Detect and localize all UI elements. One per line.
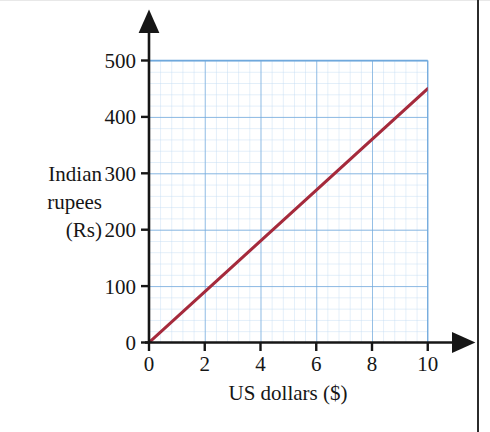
y-tick-label-400: 400 — [105, 105, 137, 129]
y-axis-title-line-2: rupees — [47, 190, 102, 214]
x-axis — [145, 343, 452, 352]
y-tick-label-500: 500 — [105, 49, 137, 73]
x-tick-labels: 0 2 4 6 8 10 — [144, 352, 439, 376]
chart-page: 0 100 200 300 400 500 0 2 4 6 8 10 US do… — [0, 0, 490, 432]
y-axis-title-line-1: Indian — [48, 162, 102, 186]
y-tick-label-300: 300 — [105, 162, 137, 186]
plot-grid — [149, 61, 428, 343]
x-tick-label-10: 10 — [417, 352, 438, 376]
y-tick-label-100: 100 — [105, 275, 137, 299]
x-tick-label-0: 0 — [144, 352, 155, 376]
y-axis-title: Indian rupees (Rs) — [47, 162, 102, 242]
y-tick-label-0: 0 — [126, 331, 137, 355]
y-axis-title-line-3: (Rs) — [66, 218, 102, 242]
y-axis — [141, 33, 149, 343]
x-tick-label-2: 2 — [200, 352, 211, 376]
x-tick-label-8: 8 — [367, 352, 378, 376]
x-tick-label-4: 4 — [255, 352, 266, 376]
line-chart: 0 100 200 300 400 500 0 2 4 6 8 10 US do… — [0, 0, 490, 432]
y-tick-label-200: 200 — [105, 218, 137, 242]
x-tick-label-6: 6 — [311, 352, 322, 376]
x-axis-title: US dollars ($) — [229, 381, 348, 405]
y-tick-labels: 0 100 200 300 400 500 — [105, 49, 137, 355]
